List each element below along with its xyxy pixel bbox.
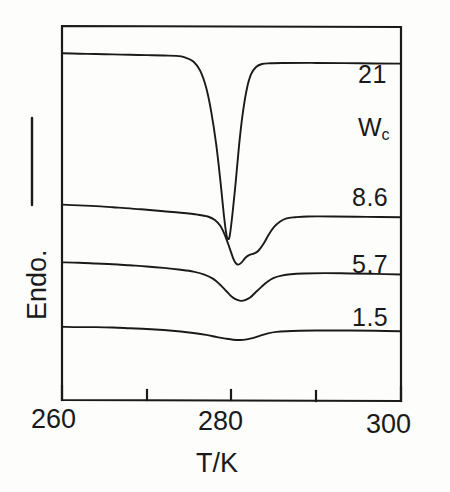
legend-title-wc-main: W <box>358 113 382 141</box>
legend-title-wc-subscript: c <box>382 126 390 143</box>
curve-label-1-5: 1.5 <box>352 305 388 330</box>
dsc-curve-5-7 <box>62 262 401 300</box>
dsc-curves <box>62 53 401 340</box>
x-axis-ticks <box>62 386 401 401</box>
legend-title-wc: Wc <box>358 115 390 143</box>
curve-label-5-7: 5.7 <box>352 252 388 277</box>
dsc-thermogram-figure: 21 Wc 8.6 5.7 1.5 260 280 300 T/K Endo. <box>0 0 450 492</box>
y-axis-title: Endo. <box>24 249 51 320</box>
dsc-curve-8-6 <box>62 205 401 265</box>
x-tick-label-300: 300 <box>366 411 411 438</box>
curve-label-8-6: 8.6 <box>352 185 388 210</box>
x-axis-title: T/K <box>196 450 238 477</box>
dsc-curve-1-5 <box>62 327 401 340</box>
x-tick-label-260: 260 <box>31 406 76 433</box>
curve-label-21: 21 <box>358 62 387 87</box>
x-tick-label-280: 280 <box>198 408 243 435</box>
plot-frame <box>62 26 401 401</box>
dsc-curve-21 <box>62 53 401 239</box>
